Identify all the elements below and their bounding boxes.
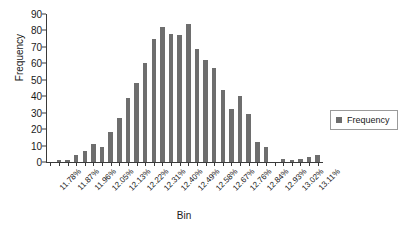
x-tick-mark	[201, 162, 210, 166]
y-axis-title: Frequency	[14, 13, 25, 103]
bar	[177, 35, 181, 162]
bar-slot	[313, 14, 322, 162]
bar	[91, 144, 95, 162]
legend-swatch-icon	[336, 117, 342, 123]
x-tick-mark	[210, 162, 219, 166]
x-tick-mark	[63, 162, 72, 166]
bar-slot	[296, 14, 305, 162]
bar	[152, 39, 156, 162]
legend: Frequency	[330, 110, 398, 130]
x-axis-title: Bin	[46, 210, 322, 221]
bar	[169, 34, 173, 162]
bar-slot	[175, 14, 184, 162]
y-tick-label: 60	[31, 58, 42, 69]
x-tick-mark	[89, 162, 98, 166]
bar-slot	[115, 14, 124, 162]
x-tick-mark	[305, 162, 314, 166]
bar-slot	[106, 14, 115, 162]
bar	[126, 98, 130, 162]
x-tick-mark	[313, 162, 322, 166]
bar-slot	[63, 14, 72, 162]
bar-slot	[124, 14, 133, 162]
bar-series	[46, 14, 322, 162]
bar-slot	[150, 14, 159, 162]
bar	[212, 68, 216, 162]
bar	[229, 109, 233, 162]
bar-slot	[305, 14, 314, 162]
y-tick-label: 50	[31, 74, 42, 85]
y-tick-label: 90	[31, 9, 42, 20]
bar	[246, 114, 250, 162]
bar	[255, 142, 259, 162]
x-axis-ticks	[46, 162, 322, 166]
x-tick-mark	[132, 162, 141, 166]
bar-slot	[262, 14, 271, 162]
x-tick-mark	[184, 162, 193, 166]
plot-area: 0102030405060708090	[46, 14, 322, 162]
x-tick-mark	[150, 162, 159, 166]
bar	[160, 27, 164, 162]
x-tick-mark	[227, 162, 236, 166]
bar-slot	[201, 14, 210, 162]
x-axis-tick-labels: 11.78%11.87%11.96%12.05%12.13%12.22%12.3…	[46, 167, 322, 207]
bar-slot	[46, 14, 55, 162]
x-tick-mark	[98, 162, 107, 166]
bar-slot	[227, 14, 236, 162]
x-tick-mark	[288, 162, 297, 166]
bar-slot	[72, 14, 81, 162]
y-tick-label: 70	[31, 41, 42, 52]
y-tick-label: 20	[31, 124, 42, 135]
bar-slot	[236, 14, 245, 162]
bar-slot	[81, 14, 90, 162]
x-tick-mark	[193, 162, 202, 166]
x-tick-mark	[72, 162, 81, 166]
bar	[186, 24, 190, 162]
x-tick-mark	[115, 162, 124, 166]
x-tick-mark	[175, 162, 184, 166]
bar-slot	[184, 14, 193, 162]
x-tick-mark	[270, 162, 279, 166]
bar-slot	[219, 14, 228, 162]
bar-slot	[270, 14, 279, 162]
x-tick-mark	[81, 162, 90, 166]
bar	[134, 83, 138, 162]
bar	[108, 132, 112, 162]
bar-slot	[55, 14, 64, 162]
bar	[117, 118, 121, 162]
bar	[203, 60, 207, 162]
bar-slot	[210, 14, 219, 162]
bar-slot	[193, 14, 202, 162]
x-tick-mark	[279, 162, 288, 166]
y-tick-label: 80	[31, 25, 42, 36]
x-tick-mark	[244, 162, 253, 166]
y-tick-label: 40	[31, 91, 42, 102]
x-tick-mark	[262, 162, 271, 166]
bar	[83, 151, 87, 163]
x-tick-mark	[158, 162, 167, 166]
x-tick-mark	[296, 162, 305, 166]
x-tick-mark	[141, 162, 150, 166]
bar-slot	[253, 14, 262, 162]
bar-slot	[288, 14, 297, 162]
x-tick-mark	[46, 162, 55, 166]
bar	[264, 147, 268, 162]
x-tick-mark	[124, 162, 133, 166]
legend-label: Frequency	[347, 115, 390, 125]
bar-slot	[279, 14, 288, 162]
bar	[100, 147, 104, 162]
bar	[238, 96, 242, 162]
bar-slot	[89, 14, 98, 162]
x-tick-mark	[55, 162, 64, 166]
x-tick-mark	[167, 162, 176, 166]
x-tick-mark	[106, 162, 115, 166]
histogram-chart: Frequency 0102030405060708090 11.78%11.8…	[0, 0, 411, 234]
bar-slot	[98, 14, 107, 162]
x-tick-mark	[236, 162, 245, 166]
y-tick-label: 30	[31, 107, 42, 118]
y-tick-label: 10	[31, 140, 42, 151]
bar-slot	[141, 14, 150, 162]
x-tick-mark	[253, 162, 262, 166]
bar	[143, 63, 147, 162]
bar	[221, 90, 225, 162]
bar-slot	[167, 14, 176, 162]
